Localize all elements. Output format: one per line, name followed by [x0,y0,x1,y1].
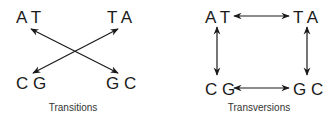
pair-gc: G C [293,80,323,99]
pair-at: A T [16,8,41,27]
transitions-panel: A T T A C G G C Transitions [16,8,136,113]
pair-cg: C G [16,74,46,93]
pair-at: A T [205,8,230,27]
caption-transitions: Transitions [49,102,98,113]
pair-cg: C G [205,80,235,99]
pair-ta: T A [107,8,133,27]
pair-gc: G C [106,74,136,93]
caption-transversions: Transversions [228,102,290,113]
mutation-diagram: A T T A C G G C Transitions A T T A C G … [0,0,334,118]
transversions-panel: A T T A C G G C Transversions [205,8,323,113]
pair-ta: T A [293,8,319,27]
